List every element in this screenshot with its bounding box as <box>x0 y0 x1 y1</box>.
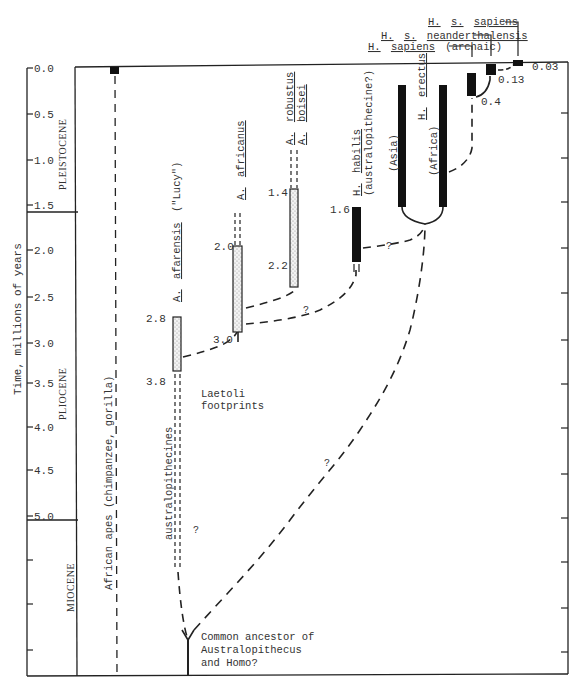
tick-1-5: 1.5 <box>34 200 54 212</box>
question-mark: ? <box>303 305 309 316</box>
sapiens-date: 0.03 <box>532 61 558 73</box>
common-ancestor-node <box>178 224 425 676</box>
archaic-date: 0.4 <box>481 96 501 108</box>
laetoli-note-line1: Laetoli <box>201 388 245 400</box>
ancestor-note-line2: Australopithecus <box>201 644 302 656</box>
australopithecines-label: australopithecines <box>163 427 175 540</box>
neanderthalensis-label: H. s. neanderthalensis <box>381 30 528 42</box>
lineage-h-habilis: 1.6 H. habilis (australopithecine?) <box>330 70 375 272</box>
tick-0-5: 0.5 <box>34 109 54 121</box>
connector-erectus-sapiens <box>449 98 472 172</box>
africanus-top-date: 2.0 <box>214 241 234 253</box>
tick-3-0: 3.0 <box>34 338 54 350</box>
boisei-bottom-date: 2.2 <box>268 260 288 272</box>
lineage-h-sapiens-archaic: 0.4 H. sapiens (archaic) <box>368 41 502 108</box>
connector-africanus-boisei <box>246 290 295 308</box>
tick-4-0: 4.0 <box>34 422 54 434</box>
robustus-label: A. robustus <box>284 72 296 145</box>
tick-2-5: 2.5 <box>34 292 54 304</box>
tick-4-5: 4.5 <box>34 465 54 477</box>
epoch-miocene: MIOCENE <box>65 563 76 612</box>
epoch-pleistocene: PLEISTOCENE <box>57 119 68 190</box>
lineage-h-erectus: (Asia) (Africa) H. erectus <box>388 53 447 224</box>
habilis-label: H. habilis <box>351 129 363 196</box>
y-axis-title: Time, millions of years <box>12 243 24 395</box>
tick-3-5: 3.5 <box>34 378 54 390</box>
epoch-pliocene: PLIOCENE <box>57 368 68 420</box>
right-axis-ticks <box>561 113 568 652</box>
y-tick-labels: 0.0 0.5 1.0 1.5 2.0 2.5 3.0 3.5 4.0 4.5 … <box>34 63 54 523</box>
lineage-african-apes: African apes (chimpanzee, gorilla) <box>103 67 119 676</box>
sapiens-sapiens-label: H. s. sapiens <box>428 16 518 28</box>
archaic-label: H. sapiens (archaic) <box>368 41 502 53</box>
ancestor-note-line1: Common ancestor of <box>201 631 314 643</box>
lineage-h-s-neanderthalensis: 0.13 H. s. neanderthalensis <box>381 30 528 86</box>
africanus-label: A. africanus <box>235 120 247 200</box>
hominid-phylogeny-diagram: 0.0 0.5 1.0 1.5 2.0 2.5 3.0 3.5 4.0 4.5 … <box>0 0 578 687</box>
connector-habilis-erectus <box>363 224 425 248</box>
afarensis-bottom-date: 3.8 <box>146 376 166 388</box>
tick-1-0: 1.0 <box>34 155 54 167</box>
boisei-label: A. boisei <box>296 84 308 145</box>
boisei-top-date: 1.4 <box>268 187 288 199</box>
lineage-a-africanus: 2.0 3.0 A. africanus <box>213 120 247 346</box>
lineage-australopithecines: australopithecines ? <box>163 374 199 570</box>
ancestor-note-line3: and Homo? <box>201 657 258 669</box>
neanderthalensis-date: 0.13 <box>498 74 524 86</box>
tick-0-0: 0.0 <box>34 63 54 75</box>
question-mark: ? <box>324 458 330 469</box>
erectus-africa-label: (Africa) <box>428 126 440 176</box>
habilis-top-date: 1.6 <box>330 204 350 216</box>
laetoli-note-line2: footprints <box>201 400 264 412</box>
tick-2-0: 2.0 <box>34 245 54 257</box>
afarensis-top-date: 2.8 <box>146 313 166 325</box>
y-axis-ticks <box>27 68 33 650</box>
question-mark: ? <box>386 241 392 252</box>
connector-africanus-habilis <box>246 270 356 324</box>
erectus-label: H. erectus <box>416 53 428 120</box>
lineage-a-robustus-boisei: 1.4 2.2 A. robustus A. boisei <box>268 72 308 287</box>
habilis-note: (australopithecine?) <box>363 70 375 196</box>
erectus-asia-label: (Asia) <box>388 134 400 172</box>
tick-5-0: 5.0 <box>34 511 54 523</box>
question-mark: ? <box>193 525 199 536</box>
lineage-a-afarensis: 2.8 3.8 A. afarensis ("Lucy") <box>146 162 183 388</box>
afarensis-label: A. afarensis ("Lucy") <box>171 162 183 302</box>
africanus-bottom-date: 3.0 <box>213 334 233 346</box>
apes-label: African apes (chimpanzee, gorilla) <box>103 376 115 590</box>
